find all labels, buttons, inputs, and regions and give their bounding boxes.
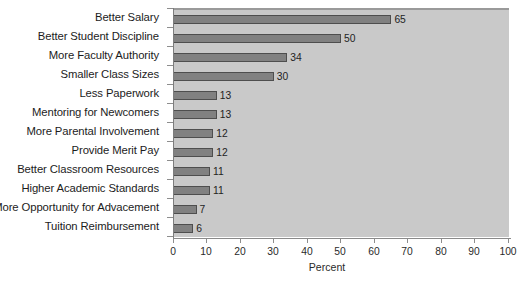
bar <box>173 186 210 195</box>
category-label: More Faculty Authority <box>49 46 159 65</box>
bar <box>173 91 217 100</box>
x-axis-tick-label: 70 <box>392 245 422 258</box>
category-label: Less Paperwork <box>79 84 159 103</box>
bar-value-label: 65 <box>394 13 405 26</box>
category-label: Mentoring for Newcomers <box>32 103 159 122</box>
x-axis-tick-label: 30 <box>258 245 288 258</box>
bar-value-label: 6 <box>196 222 202 235</box>
x-axis-tick-label: 50 <box>325 245 355 258</box>
x-axis-tick-label: 90 <box>459 245 489 258</box>
x-axis-line <box>173 238 511 239</box>
category-label: More Parental Involvement <box>26 122 159 141</box>
category-label: Better Classroom Resources <box>17 160 159 179</box>
bar <box>173 129 213 138</box>
bar-value-label: 7 <box>200 203 206 216</box>
bar-value-label: 13 <box>220 108 231 121</box>
category-label: Tuition Reimbursement <box>45 217 159 236</box>
x-axis-tick <box>173 239 174 243</box>
x-axis-tick-label: 60 <box>359 245 389 258</box>
bar <box>173 205 197 214</box>
category-label: Smaller Class Sizes <box>60 65 159 84</box>
bar-value-label: 50 <box>344 32 355 45</box>
category-label: Better Salary <box>95 8 159 27</box>
bar-value-label: 34 <box>290 51 301 64</box>
x-axis-tick <box>441 239 442 243</box>
x-axis-tick <box>240 239 241 243</box>
bar <box>173 15 391 24</box>
category-label: Provide Merit Pay <box>72 141 159 160</box>
x-axis-tick <box>340 239 341 243</box>
bar-value-label: 12 <box>216 146 227 159</box>
bar-value-label: 13 <box>220 89 231 102</box>
bar-value-label: 30 <box>277 70 288 83</box>
bar-value-label: 12 <box>216 127 227 140</box>
x-axis-tick-label: 0 <box>158 245 188 258</box>
bar <box>173 224 193 233</box>
bar <box>173 167 210 176</box>
bar-value-label: 11 <box>213 184 224 197</box>
x-axis-tick <box>374 239 375 243</box>
x-axis-tick <box>273 239 274 243</box>
x-axis-tick <box>307 239 308 243</box>
x-axis-tick <box>407 239 408 243</box>
bar <box>173 148 213 157</box>
bar <box>173 110 217 119</box>
category-label-column: Better Salary Better Student Discipline … <box>0 8 166 237</box>
x-axis-tick <box>206 239 207 243</box>
bar <box>173 34 341 43</box>
x-axis-tick-label: 100 <box>493 245 521 258</box>
x-axis-tick <box>508 239 509 243</box>
x-axis-tick-label: 80 <box>426 245 456 258</box>
x-axis-tick <box>474 239 475 243</box>
plot-area: 65 50 34 30 13 13 12 12 <box>173 8 509 237</box>
x-axis-tick-label: 10 <box>191 245 221 258</box>
x-axis-tick-label: 40 <box>292 245 322 258</box>
x-axis-tick-label: 20 <box>225 245 255 258</box>
bar <box>173 53 287 62</box>
bar <box>173 72 274 81</box>
category-label: Higher Academic Standards <box>21 179 159 198</box>
category-label: Better Student Discipline <box>38 27 159 46</box>
x-axis-title: Percent <box>287 261 367 273</box>
category-label: More Opportunity for Advacement <box>0 198 159 217</box>
y-axis-line <box>173 8 174 239</box>
bar-value-label: 11 <box>213 165 224 178</box>
